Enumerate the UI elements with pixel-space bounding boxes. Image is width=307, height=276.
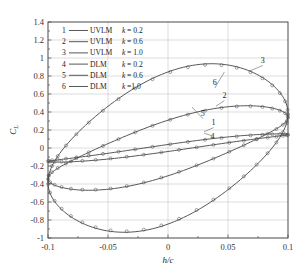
annotation-label-4: 4 [210,132,214,141]
chart-svg: 1.41.210.80.60.40.20-0.2-0.4-0.6-0.8-1-0… [0,0,307,276]
annotation-leader [250,66,263,72]
legend-k-symbol-6: k [122,82,126,91]
legend-k-value-6: =1.0 [127,82,141,91]
y-tick-label: 0.4 [33,107,44,117]
legend-k-value-4: = 0.2 [127,60,143,69]
annotation-label-5: 5 [201,109,205,118]
legend-number-4: 4 [62,60,66,69]
legend-k-value-1: = 0.2 [127,26,143,35]
y-axis-title: CL [8,125,19,135]
annotation-label-2: 2 [222,91,226,100]
annotation-leader [216,101,224,107]
y-tick-label: -0.8 [31,215,44,225]
legend-number-2: 2 [62,37,66,46]
y-tick-label: 0.6 [33,89,44,99]
legend-k-symbol-2: k [122,37,126,46]
legend-method-5: DLM [90,71,107,80]
y-tick-label: 0.8 [33,71,44,81]
x-tick-label: 0.1 [283,242,294,252]
x-tick-label: 0 [166,242,170,252]
legend-k-symbol-4: k [122,60,126,69]
legend-k-symbol-3: k [122,48,126,57]
y-tick-label: 1.2 [33,35,44,45]
legend-number-5: 5 [62,71,66,80]
annotation-label-3: 3 [261,56,265,65]
x-tick-label: 0.05 [221,242,236,252]
annotation-label-6: 6 [213,78,217,87]
y-tick-label: -0.6 [31,197,44,207]
legend-method-2: UVLM [90,37,113,46]
x-tick-label: -0.05 [99,242,117,252]
y-tick-label: -0.2 [31,161,44,171]
y-tick-label: -0.4 [31,179,45,189]
y-tick-label: 1.4 [33,17,44,27]
y-tick-label: 1 [40,53,44,63]
legend: 1UVLMk= 0.22UVLMk= 0.63UVLMk= 1.04DLMk= … [62,26,143,91]
legend-k-symbol-5: k [122,71,126,80]
legend-number-1: 1 [62,26,66,35]
y-tick-label: 0.2 [33,125,44,135]
legend-number-3: 3 [62,48,66,57]
legend-number-6: 6 [62,82,66,91]
legend-method-1: UVLM [90,26,113,35]
legend-method-3: UVLM [90,48,113,57]
legend-k-value-5: = 0.6 [127,71,143,80]
legend-method-6: DLM [90,82,107,91]
legend-k-symbol-1: k [122,26,126,35]
y-tick-label: 0 [40,143,44,153]
x-tick-label: -0.1 [41,242,54,252]
legend-k-value-3: = 1.0 [127,48,143,57]
legend-k-value-2: = 0.6 [127,37,143,46]
annotation-label-1: 1 [212,118,216,127]
legend-method-4: DLM [90,60,107,69]
chart-figure: 1.41.210.80.60.40.20-0.2-0.4-0.6-0.8-1-0… [0,0,307,276]
x-axis-title: h/c [163,255,174,265]
